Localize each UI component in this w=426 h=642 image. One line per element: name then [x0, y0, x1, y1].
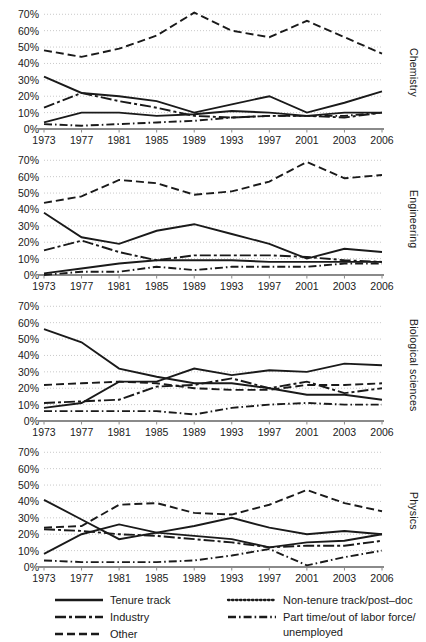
- x-tick-label: 1973: [32, 426, 56, 438]
- legend-label-part-time-line2: unemployed: [283, 626, 343, 638]
- y-tick-label: 60%: [18, 317, 39, 329]
- x-tick-label: 1997: [258, 134, 282, 146]
- panel-engineering-plot: 0%10%20%30%40%50%60%70%19731977198119851…: [0, 146, 426, 292]
- panel-engineering: 0%10%20%30%40%50%60%70%19731977198119851…: [0, 146, 426, 292]
- x-tick-label: 2001: [295, 134, 319, 146]
- x-tick-label: 1977: [70, 572, 94, 584]
- y-tick-label: 60%: [18, 171, 39, 183]
- y-tick-label: 50%: [18, 333, 39, 345]
- x-tick-label: 1997: [258, 572, 282, 584]
- series-line: [44, 13, 382, 57]
- x-tick-label: 1997: [258, 280, 282, 292]
- y-tick-label: 70%: [18, 8, 39, 20]
- y-tick-label: 30%: [18, 512, 39, 524]
- panel-label-biological-sciences: Biological sciences: [404, 292, 424, 438]
- series-line: [44, 162, 382, 203]
- x-tick-label: 2006: [370, 134, 394, 146]
- x-tick-label: 2006: [370, 572, 394, 584]
- y-tick-label: 10%: [18, 399, 39, 411]
- legend-label-non-tenure: Non-tenure track/post–doc: [283, 594, 413, 606]
- panel-label-engineering: Engineering: [404, 146, 424, 292]
- x-tick-label: 1985: [145, 426, 169, 438]
- legend-label-industry: Industry: [110, 611, 150, 623]
- y-tick-label: 70%: [18, 446, 39, 458]
- x-tick-label: 1973: [32, 572, 56, 584]
- legend-label-other: Other: [110, 628, 138, 640]
- x-tick-label: 1977: [70, 280, 94, 292]
- y-tick-label: 70%: [18, 300, 39, 312]
- x-tick-label: 2001: [295, 280, 319, 292]
- x-tick-label: 1981: [107, 280, 131, 292]
- x-tick-label: 2006: [370, 426, 394, 438]
- y-tick-label: 10%: [18, 253, 39, 265]
- y-tick-label: 50%: [18, 187, 39, 199]
- x-tick-label: 2003: [333, 280, 357, 292]
- legend-label-part-time: Part time/out of labor force/: [283, 611, 417, 623]
- series-line: [44, 549, 382, 565]
- x-tick-label: 1973: [32, 134, 56, 146]
- panel-chemistry: 0%10%20%30%40%50%60%70%19731977198119851…: [0, 0, 426, 146]
- y-tick-label: 40%: [18, 57, 39, 69]
- panel-biological-sciences-plot: 0%10%20%30%40%50%60%70%19731977198119851…: [0, 292, 426, 438]
- x-tick-label: 1985: [145, 280, 169, 292]
- x-tick-label: 1989: [183, 426, 207, 438]
- panel-chemistry-plot: 0%10%20%30%40%50%60%70%19731977198119851…: [0, 0, 426, 146]
- x-tick-label: 1981: [107, 572, 131, 584]
- y-tick-label: 20%: [18, 236, 39, 248]
- y-tick-label: 70%: [18, 154, 39, 166]
- x-tick-label: 2003: [333, 426, 357, 438]
- panel-label-physics: Physics: [404, 438, 424, 584]
- series-line: [44, 77, 382, 113]
- panel-physics: 0%10%20%30%40%50%60%70%19731977198119851…: [0, 438, 426, 584]
- panel-physics-plot: 0%10%20%30%40%50%60%70%19731977198119851…: [0, 438, 426, 584]
- y-tick-label: 40%: [18, 349, 39, 361]
- x-tick-label: 1985: [145, 134, 169, 146]
- x-tick-label: 2003: [333, 134, 357, 146]
- x-tick-label: 1973: [32, 280, 56, 292]
- y-tick-label: 30%: [18, 220, 39, 232]
- y-tick-label: 40%: [18, 203, 39, 215]
- x-tick-label: 1989: [183, 572, 207, 584]
- x-tick-label: 1993: [220, 134, 244, 146]
- x-tick-label: 1989: [183, 134, 207, 146]
- series-line: [44, 518, 382, 554]
- x-tick-label: 1981: [107, 426, 131, 438]
- x-tick-label: 1993: [220, 426, 244, 438]
- y-tick-label: 50%: [18, 479, 39, 491]
- series-line: [44, 213, 382, 259]
- series-line: [44, 264, 382, 275]
- y-tick-label: 60%: [18, 463, 39, 475]
- y-tick-label: 20%: [18, 528, 39, 540]
- x-tick-label: 2006: [370, 280, 394, 292]
- y-tick-label: 30%: [18, 74, 39, 86]
- x-tick-label: 1981: [107, 134, 131, 146]
- x-tick-label: 2003: [333, 572, 357, 584]
- x-tick-label: 1993: [220, 572, 244, 584]
- y-tick-label: 60%: [18, 25, 39, 37]
- x-tick-label: 1977: [70, 134, 94, 146]
- x-tick-label: 2001: [295, 572, 319, 584]
- chart-legend-entries: Tenure trackIndustryOtherNon-tenure trac…: [0, 586, 426, 642]
- y-tick-label: 10%: [18, 107, 39, 119]
- panel-biological-sciences: 0%10%20%30%40%50%60%70%19731977198119851…: [0, 292, 426, 438]
- x-tick-label: 1993: [220, 280, 244, 292]
- x-tick-label: 1989: [183, 280, 207, 292]
- y-tick-label: 20%: [18, 90, 39, 102]
- y-tick-label: 30%: [18, 366, 39, 378]
- y-tick-label: 40%: [18, 495, 39, 507]
- x-tick-label: 1997: [258, 426, 282, 438]
- chart-legend: Tenure trackIndustryOtherNon-tenure trac…: [0, 586, 426, 642]
- panel-label-chemistry: Chemistry: [404, 0, 424, 146]
- legend-label-tenure-track: Tenure track: [110, 594, 171, 606]
- x-tick-label: 1985: [145, 572, 169, 584]
- chart-figure: 0%10%20%30%40%50%60%70%19731977198119851…: [0, 0, 426, 642]
- y-tick-label: 20%: [18, 382, 39, 394]
- x-tick-label: 1977: [70, 426, 94, 438]
- y-tick-label: 50%: [18, 41, 39, 53]
- x-tick-label: 2001: [295, 426, 319, 438]
- y-tick-label: 10%: [18, 545, 39, 557]
